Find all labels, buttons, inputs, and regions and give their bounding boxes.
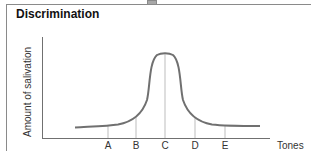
- tick-label-a: A: [105, 140, 112, 151]
- tick-label-b: B: [133, 140, 140, 151]
- response-curve: [75, 53, 260, 127]
- tick-label-e: E: [222, 140, 229, 151]
- plot-area: [0, 0, 311, 151]
- tick-label-d: D: [191, 140, 198, 151]
- x-axis-label: Tones: [277, 140, 304, 151]
- tick-label-c: C: [161, 140, 168, 151]
